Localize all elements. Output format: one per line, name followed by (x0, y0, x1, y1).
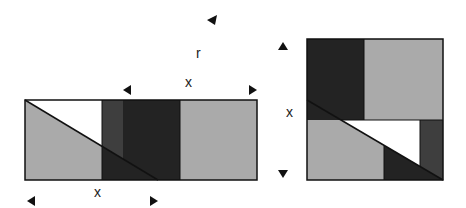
bottom-right-arrow-icon (150, 196, 158, 206)
side-up-arrow-icon (278, 42, 288, 50)
left-rectangle (25, 100, 257, 180)
side-down-arrow-icon (278, 170, 288, 178)
label-bottom-x: x (94, 185, 101, 199)
right-square (307, 39, 443, 180)
top-left-arrow-icon (123, 85, 131, 95)
label-side-x: x (286, 105, 293, 119)
label-r: r (196, 46, 201, 60)
bottom-left-arrow-icon (27, 196, 35, 206)
top-right-arrow-icon (249, 85, 257, 95)
label-top-x: x (185, 75, 192, 89)
left-light-block (180, 100, 257, 180)
right-light-block (364, 39, 443, 120)
dissection-diagram (0, 0, 466, 208)
r-arrowhead-icon (207, 15, 217, 25)
left-dark-block (123, 100, 180, 180)
